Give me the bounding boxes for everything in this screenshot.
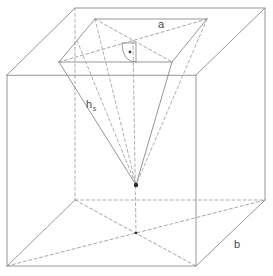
pyramid-edge-back-left	[95, 19, 136, 185]
pyramid-apex-dot-icon	[134, 183, 138, 187]
cube-bottom-centre-dot-icon	[135, 232, 138, 235]
right-angle-marker	[122, 43, 136, 62]
pyramid-lateral-edges	[59, 19, 207, 233]
cube-front-face	[7, 75, 196, 266]
label-slant-height: hs	[86, 98, 97, 112]
bottom-diagonal-left-depth	[7, 200, 75, 266]
right-angle-dot-icon	[129, 51, 132, 54]
label-slant-height-subscript: s	[93, 105, 97, 112]
pyramid-axis-line	[133, 41, 136, 234]
geometry-figure-root: a hs b	[0, 0, 273, 276]
label-slant-height-main: h	[86, 98, 92, 110]
pyramid-base-edge-right	[172, 19, 207, 62]
pyramid-edge-front-left	[59, 62, 136, 185]
figure-labels: a hs b	[86, 18, 240, 250]
cube-edge-bottom-right-depth	[196, 200, 265, 266]
label-edge-a: a	[158, 18, 165, 30]
geometry-diagram: a hs b	[0, 0, 273, 276]
label-edge-b: b	[234, 238, 240, 250]
pyramid-edge-front-right	[136, 62, 172, 185]
